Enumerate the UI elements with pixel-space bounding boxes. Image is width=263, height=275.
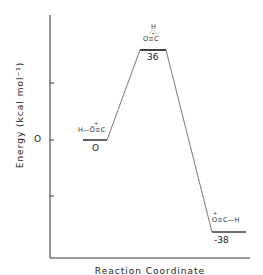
y-tick-label-zero: O: [34, 134, 41, 144]
x-axis-label: Reaction Coordinate: [95, 266, 205, 275]
ts-energy-label: 36: [147, 52, 158, 62]
reactant-species: H—O̅≡C: [78, 126, 106, 134]
y-axis-label: Energy (kcal mol⁻¹): [15, 62, 25, 169]
product-species: O≡C—H: [212, 216, 240, 224]
product-energy-label: -38: [214, 235, 229, 245]
ts-species-h: H: [151, 23, 156, 31]
ts-species-oc: O≡C: [143, 35, 159, 43]
reactant-energy-label: O: [92, 143, 99, 153]
reaction-path: [83, 50, 246, 232]
